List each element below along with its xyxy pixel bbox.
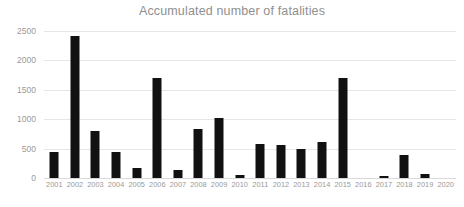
y-axis-tick-label: 0	[31, 174, 36, 183]
bar-slot	[250, 31, 271, 178]
bar-slot	[209, 31, 230, 178]
y-axis-tick-label: 1000	[17, 115, 36, 124]
bar-slot	[65, 31, 86, 178]
plot-area	[44, 31, 456, 178]
bar[interactable]	[276, 145, 285, 178]
y-axis: 05001000150020002500	[0, 31, 40, 178]
bar[interactable]	[112, 152, 121, 178]
x-axis-tick-label: 2010	[229, 181, 250, 190]
x-axis-tick-label: 2019	[415, 181, 436, 190]
bar-slot	[44, 31, 65, 178]
x-axis-tick-label: 2016	[353, 181, 374, 190]
bar[interactable]	[153, 78, 162, 178]
x-axis-tick-label: 2011	[250, 181, 271, 190]
bar-slot	[271, 31, 292, 178]
x-axis: 2001200220032004200520062007200820092010…	[44, 181, 456, 197]
bar-slot	[229, 31, 250, 178]
x-axis-tick-label: 2018	[394, 181, 415, 190]
y-axis-tick-label: 2000	[17, 56, 36, 65]
bar-slot	[168, 31, 189, 178]
bar[interactable]	[132, 168, 141, 178]
bar[interactable]	[297, 149, 306, 178]
bar-slot	[188, 31, 209, 178]
x-axis-tick-label: 2001	[44, 181, 65, 190]
bar[interactable]	[400, 155, 409, 178]
bar-slot	[332, 31, 353, 178]
bar[interactable]	[338, 78, 347, 178]
bar[interactable]	[50, 152, 59, 178]
bar-chart: Accumulated number of fatalities 0500100…	[0, 0, 464, 207]
bar-slot	[394, 31, 415, 178]
bar-slot	[85, 31, 106, 178]
bar[interactable]	[318, 142, 327, 178]
bar-slot	[106, 31, 127, 178]
bar-slot	[147, 31, 168, 178]
bar-slot	[353, 31, 374, 178]
bar[interactable]	[215, 118, 224, 178]
x-axis-tick-label: 2008	[188, 181, 209, 190]
x-axis-tick-label: 2004	[106, 181, 127, 190]
bar-slot	[312, 31, 333, 178]
x-axis-tick-label: 2006	[147, 181, 168, 190]
x-axis-tick-label: 2015	[332, 181, 353, 190]
y-axis-tick-label: 500	[22, 144, 36, 153]
x-axis-tick-label: 2017	[374, 181, 395, 190]
bar[interactable]	[256, 144, 265, 178]
y-axis-tick-label: 2500	[17, 27, 36, 36]
bar-slot	[374, 31, 395, 178]
x-axis-tick-label: 2012	[271, 181, 292, 190]
bar-slot	[415, 31, 436, 178]
bar-slot	[126, 31, 147, 178]
x-axis-tick-label: 2020	[435, 181, 456, 190]
bar[interactable]	[70, 36, 79, 178]
y-axis-tick-label: 1500	[17, 86, 36, 95]
bar-slot	[291, 31, 312, 178]
bar-slot	[435, 31, 456, 178]
x-axis-tick-label: 2014	[312, 181, 333, 190]
axis-baseline	[44, 178, 456, 179]
bar[interactable]	[91, 131, 100, 178]
x-axis-tick-label: 2007	[168, 181, 189, 190]
bar[interactable]	[173, 170, 182, 178]
x-axis-tick-label: 2003	[85, 181, 106, 190]
x-axis-tick-label: 2009	[209, 181, 230, 190]
x-axis-tick-label: 2002	[65, 181, 86, 190]
x-axis-tick-label: 2005	[126, 181, 147, 190]
chart-title: Accumulated number of fatalities	[0, 4, 464, 18]
bar[interactable]	[194, 129, 203, 178]
x-axis-tick-label: 2013	[291, 181, 312, 190]
